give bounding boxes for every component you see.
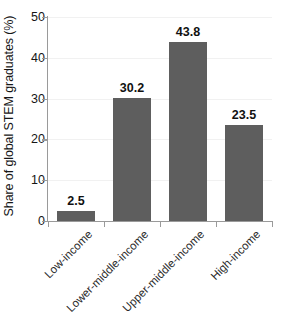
x-axis-tick-mark (272, 221, 273, 227)
y-axis-tick-mark (42, 180, 48, 181)
x-axis-tick-mark (104, 221, 105, 227)
gridline (48, 99, 272, 100)
x-axis-tick-mark (48, 221, 49, 227)
bar-value-label: 2.5 (46, 194, 106, 207)
plot-area: 2.530.243.823.5 (48, 17, 272, 221)
y-axis-tick-mark (42, 17, 48, 18)
x-axis-tick-label: High-income (208, 228, 262, 282)
bar-value-label: 43.8 (158, 26, 218, 39)
bar-chart-figure: Share of global STEM graduates (%) 01020… (0, 0, 291, 329)
x-axis-tick-mark (160, 221, 161, 227)
bar (169, 42, 207, 221)
x-axis-tick-label: Low-income (42, 228, 94, 280)
bar (57, 211, 95, 221)
y-axis-tick-mark (42, 99, 48, 100)
bar (225, 125, 263, 221)
gridline (48, 58, 272, 59)
y-axis-tick-mark (42, 58, 48, 59)
y-axis-title-container: Share of global STEM graduates (%) (0, 0, 18, 232)
bar (113, 98, 151, 221)
y-axis-title: Share of global STEM graduates (%) (2, 16, 16, 217)
gridline (48, 17, 272, 18)
bar-value-label: 23.5 (214, 109, 274, 122)
y-axis-tick-mark (42, 139, 48, 140)
bar-value-label: 30.2 (102, 81, 162, 94)
x-axis-tick-labels: Low-incomeLower-middle-incomeUpper-middl… (0, 228, 291, 329)
x-axis-tick-mark (216, 221, 217, 227)
